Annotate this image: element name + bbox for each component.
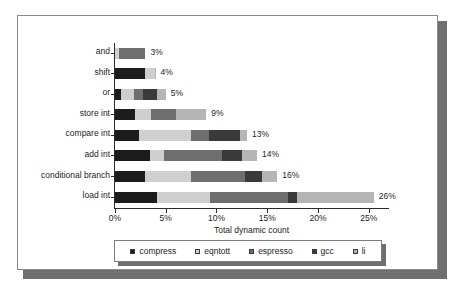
bar-rows: and3%shift4%or5%store int9%compare int13…: [18, 43, 439, 208]
bar-value-label: 3%: [150, 47, 162, 57]
bar-segment-eqntott: [121, 89, 134, 100]
category-label: conditional branch: [41, 170, 110, 180]
bar-segment-li: [176, 109, 206, 120]
category-label: and: [96, 46, 110, 56]
bar-row: and3%: [18, 43, 439, 64]
bar-row: shift4%: [18, 64, 439, 85]
y-axis-tick: [111, 73, 114, 74]
y-axis-tick: [111, 114, 114, 115]
stacked-bar: [115, 68, 156, 79]
legend-swatch-li: [353, 249, 358, 254]
stacked-bar: [115, 109, 206, 120]
legend-swatch-espresso: [249, 249, 254, 254]
bar-segment-gcc: [143, 89, 156, 100]
stacked-bar: [115, 48, 145, 59]
chart-figure: and3%shift4%or5%store int9%compare int13…: [17, 15, 438, 270]
y-axis-tick: [111, 135, 114, 136]
bar-value-label: 5%: [171, 88, 183, 98]
bar-segment-compress: [115, 109, 135, 120]
y-axis-tick: [111, 155, 114, 156]
bar-segment-compress: [115, 130, 139, 141]
category-label: or: [102, 87, 110, 97]
bar-row: load int26%: [18, 187, 439, 208]
bar-segment-espresso: [151, 109, 176, 120]
legend-item: espresso: [249, 246, 293, 256]
bar-segment-eqntott: [157, 192, 211, 203]
bar-row: conditional branch16%: [18, 167, 439, 188]
bar-segment-espresso: [210, 192, 287, 203]
y-axis-tick: [111, 53, 114, 54]
bar-value-label: 26%: [379, 191, 396, 201]
x-axis-tick-label: 10%: [208, 213, 225, 223]
x-axis-tick-label: 15%: [259, 213, 276, 223]
bar-segment-gcc: [245, 171, 262, 182]
bar-segment-eqntott: [135, 109, 150, 120]
x-axis-tick-label: 0%: [109, 213, 121, 223]
bar-row: or5%: [18, 84, 439, 105]
bar-row: store int9%: [18, 105, 439, 126]
legend-label: espresso: [258, 246, 293, 256]
bar-segment-li: [155, 68, 156, 79]
bar-segment-li: [262, 171, 277, 182]
category-label: load int: [83, 190, 110, 200]
category-label: add int: [84, 149, 110, 159]
bar-row: add int14%: [18, 146, 439, 167]
bar-segment-espresso: [191, 171, 245, 182]
legend-swatch-gcc: [312, 249, 317, 254]
legend-item: li: [353, 246, 366, 256]
bar-value-label: 13%: [252, 129, 269, 139]
stacked-bar: [115, 89, 166, 100]
bar-segment-li: [297, 192, 374, 203]
stacked-bar: [115, 192, 374, 203]
plot-area: and3%shift4%or5%store int9%compare int13…: [18, 16, 439, 271]
bar-segment-eqntott: [150, 150, 164, 161]
chart-legend: compresseqntottespressogccli: [114, 240, 382, 262]
legend-label: eqntott: [204, 246, 230, 256]
bar-segment-li: [157, 89, 166, 100]
bar-segment-eqntott: [145, 171, 191, 182]
bar-segment-espresso: [119, 48, 145, 59]
legend-item: gcc: [312, 246, 334, 256]
x-axis-tick-label: 20%: [309, 213, 326, 223]
bar-segment-gcc: [209, 130, 239, 141]
category-label: store int: [80, 108, 110, 118]
legend-item: compress: [130, 246, 176, 256]
bar-segment-espresso: [164, 150, 222, 161]
bar-segment-espresso: [134, 89, 143, 100]
legend-swatch-compress: [130, 249, 135, 254]
x-axis-tick-label: 5%: [160, 213, 172, 223]
bar-value-label: 14%: [262, 149, 279, 159]
legend-label: li: [362, 246, 366, 256]
bar-segment-gcc: [222, 150, 242, 161]
y-axis-tick: [111, 176, 114, 177]
x-axis-title: Total dynamic count: [114, 225, 389, 235]
stacked-bar: [115, 171, 277, 182]
category-label: shift: [94, 67, 110, 77]
bar-row: compare int13%: [18, 125, 439, 146]
y-axis-tick: [111, 94, 114, 95]
legend-label: gcc: [321, 246, 334, 256]
stacked-bar: [115, 150, 257, 161]
stacked-bar: [115, 130, 247, 141]
x-axis-tick-label: 25%: [360, 213, 377, 223]
bar-segment-li: [240, 130, 247, 141]
legend-item: eqntott: [195, 246, 230, 256]
legend-label: compress: [139, 246, 176, 256]
category-label: compare int: [66, 128, 110, 138]
bar-value-label: 9%: [211, 108, 223, 118]
bar-value-label: 16%: [282, 170, 299, 180]
bar-segment-eqntott: [145, 68, 154, 79]
bar-segment-espresso: [191, 130, 209, 141]
bar-value-label: 4%: [161, 67, 173, 77]
bar-segment-compress: [115, 150, 150, 161]
legend-swatch-eqntott: [195, 249, 200, 254]
bar-segment-li: [242, 150, 257, 161]
bar-segment-eqntott: [139, 130, 191, 141]
bar-segment-compress: [115, 171, 145, 182]
bar-segment-compress: [115, 68, 145, 79]
bar-segment-compress: [115, 192, 157, 203]
y-axis-tick: [111, 197, 114, 198]
bar-segment-gcc: [288, 192, 297, 203]
